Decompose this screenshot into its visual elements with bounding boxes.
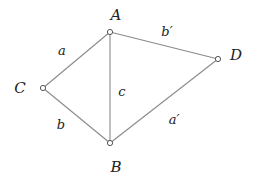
edge-labels: a b′ c b a′ (57, 24, 180, 132)
node-label-a: A (109, 6, 122, 24)
edge-label-a: a (58, 43, 66, 58)
edge-a-prime (110, 59, 218, 143)
nodes (40, 29, 220, 145)
edge-b (43, 88, 110, 143)
node-d (215, 56, 220, 61)
edges (43, 32, 218, 143)
node-label-c: C (14, 79, 26, 97)
edge-label-b-prime: b′ (161, 24, 172, 39)
node-b (107, 140, 112, 145)
edge-label-c: c (118, 84, 126, 99)
edge-a (43, 32, 110, 88)
node-label-b: B (109, 158, 121, 176)
node-c (40, 85, 45, 90)
node-a (107, 29, 112, 34)
node-label-d: D (229, 46, 242, 64)
edge-label-b: b (57, 117, 65, 132)
edge-label-a-prime: a′ (169, 112, 180, 127)
node-labels: A B C D (14, 6, 242, 176)
graph-diagram: a b′ c b a′ A B C D (0, 0, 258, 183)
